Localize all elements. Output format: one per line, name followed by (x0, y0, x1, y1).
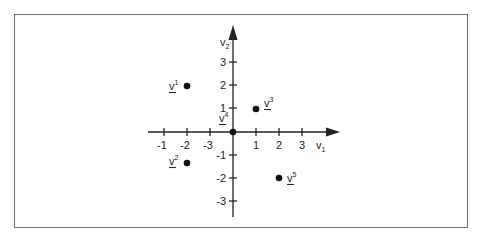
vector-point (276, 175, 283, 182)
x-axis-arrow-icon (326, 128, 340, 137)
x-axis-label: v1 (316, 139, 326, 153)
x-axis (148, 128, 340, 137)
x-tick-label: 3 (299, 139, 305, 151)
y-tick-label: -2 (216, 172, 226, 184)
vector-label: v2 (169, 154, 179, 167)
x-tick-labels: -1 -2 -3 1 2 3 (157, 139, 305, 151)
x-tick-label: -2 (180, 139, 190, 151)
vector-point (184, 83, 191, 90)
x-tick-label: -3 (203, 139, 213, 151)
vector-point (253, 106, 260, 113)
y-axis-arrow-icon (229, 25, 238, 40)
vector-label: v1 (169, 79, 179, 92)
vector-label: v5 (287, 171, 297, 184)
x-tick-label: -1 (157, 139, 167, 151)
y-axis (229, 25, 238, 217)
vector-point (184, 160, 191, 167)
vector-plot: -1 -2 -3 1 2 3 3 2 1 -1 -2 -3 v1 v2 v1v2… (0, 0, 485, 244)
y-tick-label: -1 (216, 149, 226, 161)
vector-label: v3 (264, 96, 274, 109)
y-axis-label: v2 (220, 36, 230, 50)
y-tick-label: 2 (220, 79, 226, 91)
vector-label: v4 (219, 111, 229, 124)
y-tick-label: 3 (220, 56, 226, 68)
x-tick-label: 1 (253, 139, 259, 151)
y-tick-label: -3 (216, 195, 226, 207)
vector-point (230, 129, 237, 136)
x-tick-label: 2 (276, 139, 282, 151)
